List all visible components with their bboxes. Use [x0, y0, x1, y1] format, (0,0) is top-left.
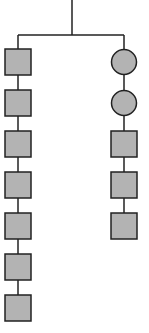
right-circle-node-1 — [112, 91, 137, 116]
right-circle-node-0 — [112, 50, 137, 75]
left-square-node-6 — [5, 295, 31, 321]
right-square-node-4 — [111, 213, 137, 239]
right-square-node-3 — [111, 172, 137, 198]
left-square-node-3 — [5, 172, 31, 198]
left-square-node-1 — [5, 90, 31, 116]
left-square-node-0 — [5, 49, 31, 75]
left-square-node-5 — [5, 254, 31, 280]
right-square-node-2 — [111, 131, 137, 157]
tree-diagram — [0, 0, 149, 333]
left-square-node-4 — [5, 213, 31, 239]
left-square-node-2 — [5, 131, 31, 157]
